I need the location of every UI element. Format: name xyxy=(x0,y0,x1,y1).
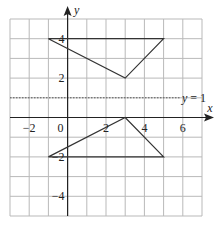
axes xyxy=(10,6,214,216)
x-tick-label: 4 xyxy=(141,121,147,135)
coordinate-diagram: −2024642−2−4xyy = 1 xyxy=(0,0,216,227)
mirror-line-label: y = 1 xyxy=(181,91,206,105)
labels: −2024642−2−4xyy = 1 xyxy=(23,3,214,203)
y-axis-label: y xyxy=(73,3,80,17)
x-tick-label: −2 xyxy=(23,121,36,135)
y-tick-label: 2 xyxy=(59,71,65,85)
x-axis-label: x xyxy=(206,101,213,115)
y-tick-label: −4 xyxy=(52,189,65,203)
y-tick-label: −2 xyxy=(52,150,65,164)
x-tick-label: 2 xyxy=(103,121,109,135)
x-tick-label: 6 xyxy=(180,121,186,135)
x-tick-label: 0 xyxy=(58,121,64,135)
y-tick-label: 4 xyxy=(59,32,65,46)
